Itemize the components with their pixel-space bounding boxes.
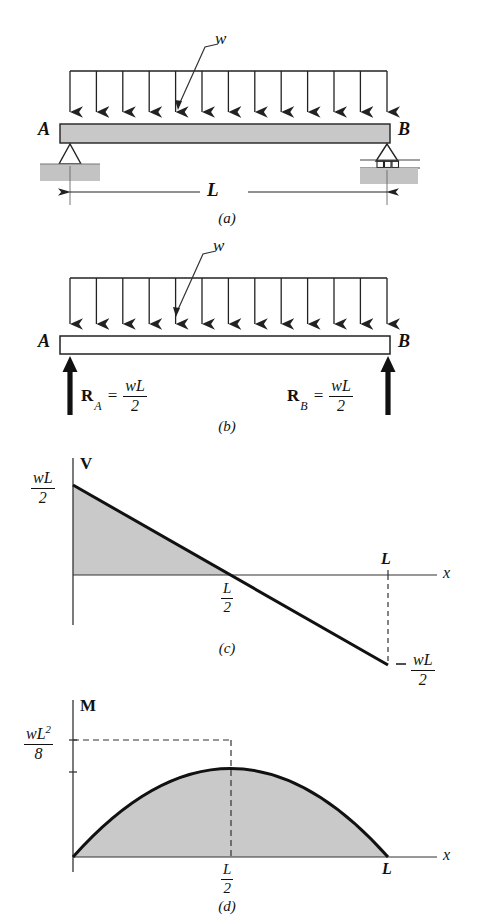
reaction-right-symbol: R [287, 386, 299, 406]
shear-tick-label-L: L [381, 551, 391, 567]
moment-tick-mid-denominator: 2 [221, 880, 233, 897]
beam-body-b [60, 336, 390, 354]
shear-axis-label-V: V [80, 455, 92, 472]
shear-value-top-numerator: wL [31, 470, 55, 489]
reaction-right-numerator: wL [329, 378, 353, 397]
moment-value-max-denominator: 8 [24, 745, 53, 763]
load-label-a: w [215, 30, 226, 47]
reaction-right-expression: R B = wL 2 [287, 378, 353, 415]
node-label-b-left: A [38, 332, 50, 350]
moment-axis-label-M: M [80, 697, 96, 714]
shear-tick-mid-numerator: L [221, 581, 233, 599]
node-label-a-right: B [398, 120, 410, 138]
beam-body-a [60, 124, 390, 143]
shear-value-top-denominator: 2 [31, 489, 55, 507]
span-label-L: L [207, 180, 219, 199]
shear-value-bottom-denominator: 2 [411, 671, 435, 689]
load-label-b: w [213, 237, 224, 254]
reaction-arrow-left [63, 356, 78, 415]
moment-value-max: wL2 8 [24, 724, 53, 763]
reaction-left-subscript: A [94, 399, 101, 414]
moment-value-max-base: wL [26, 725, 46, 742]
load-label-leader-a [178, 44, 218, 107]
shear-value-bottom: wL 2 [411, 652, 435, 689]
caption-d: (d) [197, 898, 257, 915]
node-label-a-left: A [38, 120, 50, 138]
panel-d-group [69, 700, 437, 872]
reaction-right-equals: = [314, 386, 324, 406]
load-arrows-b [70, 278, 387, 324]
shear-tick-mid-denominator: 2 [221, 599, 233, 616]
reaction-left-symbol: R [81, 386, 93, 406]
node-label-b-right: B [398, 332, 410, 350]
load-label-leader-b [176, 251, 216, 314]
shear-tick-label-midspan: L 2 [221, 581, 233, 616]
load-arrows-a [70, 71, 387, 112]
reaction-left-fraction: wL 2 [123, 378, 147, 415]
moment-tick-label-L: L [382, 861, 392, 877]
reaction-left-numerator: wL [123, 378, 147, 397]
moment-value-max-numerator: wL2 [24, 724, 53, 745]
shear-value-bottom-numerator: wL [411, 652, 435, 671]
moment-tick-mid-numerator: L [221, 862, 233, 880]
reaction-arrow-right [381, 356, 396, 415]
moment-tick-label-midspan: L 2 [221, 862, 233, 897]
roller-support-a [360, 144, 420, 184]
reaction-right-fraction: wL 2 [329, 378, 353, 415]
moment-axis-label-x: x [443, 847, 450, 863]
load-leader-arrowhead-b [173, 307, 180, 317]
reaction-left-expression: R A = wL 2 [81, 378, 147, 415]
panel-a-group [40, 44, 420, 205]
caption-b: (b) [197, 418, 257, 435]
caption-a: (a) [197, 210, 257, 227]
beam-diagram-figure: w A B L (a) w A B R A = wL 2 R B = wL 2 … [0, 0, 482, 924]
shear-axis-label-x: x [443, 565, 450, 581]
caption-c: (c) [197, 640, 257, 657]
reaction-left-denominator: 2 [123, 397, 147, 415]
shear-value-top: wL 2 [31, 470, 55, 507]
reaction-right-denominator: 2 [329, 397, 353, 415]
reaction-right-subscript: B [300, 399, 307, 414]
reaction-left-equals: = [108, 386, 118, 406]
moment-value-max-exponent: 2 [46, 723, 51, 735]
